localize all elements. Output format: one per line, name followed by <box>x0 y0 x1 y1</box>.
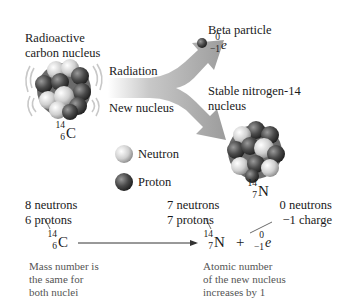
carbon-atomic: 6 <box>60 133 66 142</box>
atomic-note-line2: of the new nucleus <box>203 273 286 286</box>
reaction-arrow <box>78 240 198 246</box>
carbon-mass: 14 <box>56 121 67 130</box>
product2-atomic: −1 <box>254 243 265 252</box>
neutron-legend-icon <box>115 145 133 163</box>
mass-note-line3: both nuclei <box>29 286 99 299</box>
new-nucleus-label: New nucleus <box>109 101 174 116</box>
radiation-label: Radiation <box>109 64 158 79</box>
product2-mass: 0 <box>259 231 265 240</box>
reactant-atomic: 6 <box>52 242 58 251</box>
carbon-title-line2: carbon nucleus <box>25 46 100 61</box>
electron-counts: 0 neutrons −1 charge <box>270 198 332 228</box>
nitrogen-symbol: 147N <box>258 183 269 200</box>
product1-mass: 14 <box>204 230 215 239</box>
atomic-note-line1: Atomic number <box>203 260 286 273</box>
atomic-note-line3: increases by 1 <box>203 286 286 299</box>
nitrogen-counts: 7 neutrons 7 protons <box>167 198 219 228</box>
product2-sym: e <box>265 235 271 250</box>
nitrogen-sym: N <box>258 183 269 199</box>
nitrogen-mass: 14 <box>248 179 259 188</box>
pointer-lines <box>45 219 272 233</box>
nitrogen-title-line1: Stable nitrogen-14 <box>208 84 301 99</box>
beta-charge: −1 <box>210 45 221 54</box>
nitrogen-title: Stable nitrogen-14 nucleus <box>208 84 301 114</box>
atomic-number-note: Atomic number of the new nucleus increas… <box>203 260 286 299</box>
product1-sym: N <box>214 234 225 250</box>
carbon-symbol: 146C <box>66 125 76 142</box>
beta-particle-icon <box>197 38 207 48</box>
beta-mass: 0 <box>215 33 221 42</box>
equation-reactant: 146C <box>58 234 68 251</box>
nitrogen-neutrons: 7 neutrons <box>167 198 219 213</box>
legend-neutron-label: Neutron <box>138 147 179 162</box>
reactant-mass: 14 <box>48 230 59 239</box>
reactant-sym: C <box>58 234 68 250</box>
nitrogen-protons: 7 protons <box>167 213 219 228</box>
legend-proton-label: Proton <box>138 175 171 190</box>
carbon-sym: C <box>66 125 76 141</box>
carbon-title: Radioactive carbon nucleus <box>25 31 100 61</box>
beta-symbol: 0−1e <box>221 37 227 53</box>
mass-number-note: Mass number is the same for both nuclei <box>29 260 99 299</box>
nitrogen-nucleus-icon <box>227 121 285 183</box>
carbon-nucleus-icon <box>35 59 91 120</box>
electron-charge: −1 charge <box>270 213 332 228</box>
nitrogen-atomic: 7 <box>252 191 258 200</box>
carbon-title-line1: Radioactive <box>25 31 100 46</box>
equation-plus: + <box>236 234 244 251</box>
carbon-protons: 6 protons <box>25 213 77 228</box>
electron-neutrons: 0 neutrons <box>270 198 332 213</box>
beta-sym: e <box>221 37 227 52</box>
carbon-neutrons: 8 neutrons <box>25 198 77 213</box>
carbon-counts: 8 neutrons 6 protons <box>25 198 77 228</box>
equation-product-electron: 0−1e <box>265 235 271 251</box>
equation-product-nitrogen: 147N <box>214 234 225 251</box>
product1-atomic: 7 <box>208 242 214 251</box>
mass-note-line2: the same for <box>29 273 99 286</box>
proton-legend-icon <box>115 173 133 191</box>
nitrogen-title-line2: nucleus <box>208 99 301 114</box>
mass-note-line1: Mass number is <box>29 260 99 273</box>
